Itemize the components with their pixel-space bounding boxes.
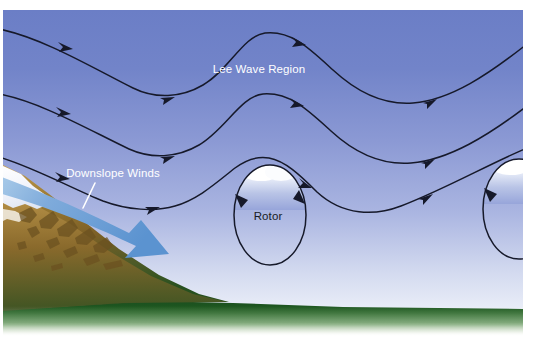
diagram-scene: Lee Wave Region Downslope Winds Rotor — [3, 10, 523, 336]
downslope-winds-label: Downslope Winds — [66, 167, 160, 179]
mountain-wave-diagram: Lee Wave Region Downslope Winds Rotor — [3, 10, 523, 336]
bottom-fade — [3, 306, 523, 336]
rotor-label: Rotor — [254, 210, 283, 222]
figure-container: Lee Wave Region Downslope Winds Rotor — [0, 0, 533, 338]
lee-wave-region-label: Lee Wave Region — [213, 63, 306, 75]
